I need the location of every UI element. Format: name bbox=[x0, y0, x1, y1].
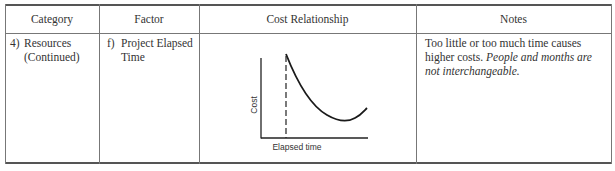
cost-factor-table: Category Factor Cost Relationship Notes … bbox=[5, 4, 612, 164]
y-axis-label: Cost bbox=[249, 96, 259, 114]
cost-relationship-chart: Cost Elapsed time bbox=[5, 4, 612, 164]
x-axis-label: Elapsed time bbox=[272, 142, 321, 152]
cost-curve bbox=[286, 54, 367, 121]
